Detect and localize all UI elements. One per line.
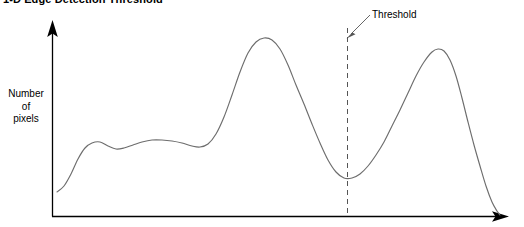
chart-figure: 1-D Edge Detection Threshold Number of p… [0, 0, 524, 227]
histogram-curve [57, 38, 500, 215]
plot-area [0, 0, 524, 227]
threshold-leader-line [351, 15, 370, 34]
